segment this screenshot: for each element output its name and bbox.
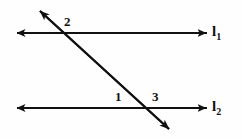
geometry-figure: 2 1 3 l1 l2 [0,0,242,139]
angle-label-2: 2 [64,15,71,28]
line-2-label-sub: 2 [216,106,221,117]
line-1-label: l1 [212,24,221,39]
angle-label-1: 1 [115,90,122,103]
transversal-lower-arrow [40,11,169,129]
line-1-label-sub: 1 [216,31,221,42]
angle-label-3: 3 [152,90,159,103]
line-2-label: l2 [212,99,221,114]
diagram-canvas [0,0,242,139]
